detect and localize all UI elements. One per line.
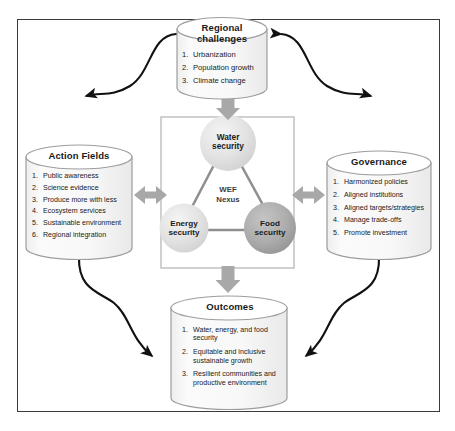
diagram-frame [17,19,440,412]
wef-nexus-diagram: Regional challenges 1. Urbanization 2. P… [0,0,455,431]
